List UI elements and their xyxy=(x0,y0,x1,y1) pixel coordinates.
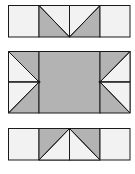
bottom-strip xyxy=(9,129,131,161)
quilt-diagram xyxy=(0,0,135,174)
top-strip xyxy=(9,6,131,38)
bottom-left-square xyxy=(9,129,40,161)
center-block xyxy=(9,52,131,114)
bottom-right-square xyxy=(100,129,130,161)
top-right-square xyxy=(100,6,130,38)
center-square xyxy=(39,52,100,114)
top-left-square xyxy=(9,6,40,38)
